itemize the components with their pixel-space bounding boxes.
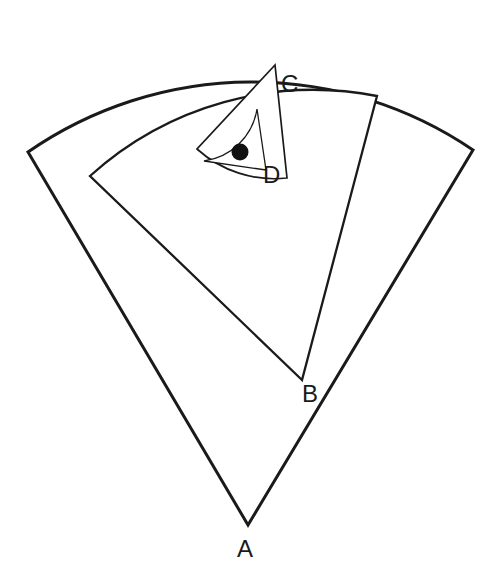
vertex-label-a: A <box>237 535 253 562</box>
diagram-canvas: A B C D <box>0 0 497 577</box>
vertex-label-d: D <box>263 161 280 188</box>
centre-dot <box>232 144 249 161</box>
vertex-label-c: C <box>281 70 298 97</box>
vertex-label-b: B <box>302 380 318 407</box>
nested-sectors-figure: A B C D <box>0 0 497 577</box>
